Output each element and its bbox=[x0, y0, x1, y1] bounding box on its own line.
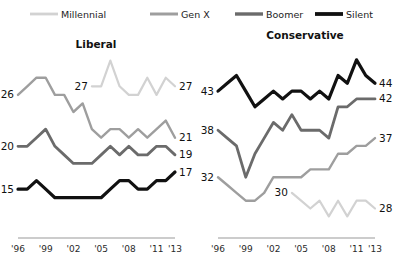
x-tick-label-liberal-08: '08 bbox=[122, 244, 136, 254]
x-tick-label-conservative-99: '99 bbox=[239, 244, 253, 254]
start-value-label-liberal-gen-x: 26 bbox=[1, 88, 15, 100]
end-value-label-conservative-boomer: 42 bbox=[379, 92, 392, 104]
end-value-label-liberal-gen-x: 21 bbox=[179, 131, 192, 143]
x-tick-label-conservative-02: '02 bbox=[266, 244, 280, 254]
legend-label-gen-x: Gen X bbox=[181, 9, 210, 20]
x-tick-label-conservative-96: '96 bbox=[211, 244, 225, 254]
end-value-label-liberal-boomer: 19 bbox=[179, 148, 192, 160]
x-tick-label-conservative-11: '11 bbox=[350, 244, 364, 254]
legend-label-boomer: Boomer bbox=[266, 9, 303, 20]
panel-title-conservative: Conservative bbox=[266, 29, 343, 41]
legend-label-silent: Silent bbox=[346, 9, 373, 20]
end-value-label-conservative-millennial: 28 bbox=[379, 202, 392, 214]
x-tick-label-liberal-02: '02 bbox=[66, 244, 80, 254]
end-value-label-conservative-silent: 44 bbox=[379, 77, 393, 89]
panel-title-liberal: Liberal bbox=[76, 38, 117, 50]
end-value-label-conservative-gen-x: 37 bbox=[379, 132, 392, 144]
start-value-label-conservative-gen-x: 32 bbox=[201, 171, 214, 183]
legend-label-millennial: Millennial bbox=[61, 9, 106, 20]
x-tick-label-liberal-11: '11 bbox=[150, 244, 164, 254]
start-value-label-conservative-millennial: 30 bbox=[275, 186, 288, 198]
start-value-label-conservative-silent: 43 bbox=[201, 85, 214, 97]
x-tick-label-liberal-99: '99 bbox=[39, 244, 53, 254]
x-tick-label-liberal-13: '13 bbox=[168, 244, 182, 254]
x-tick-label-liberal-96: '96 bbox=[11, 244, 25, 254]
start-value-label-conservative-boomer: 38 bbox=[201, 124, 214, 136]
x-tick-label-conservative-13: '13 bbox=[368, 244, 382, 254]
x-tick-label-liberal-05: '05 bbox=[94, 244, 108, 254]
start-value-label-liberal-boomer: 20 bbox=[1, 140, 14, 152]
start-value-label-liberal-silent: 15 bbox=[1, 183, 14, 195]
x-tick-label-conservative-05: '05 bbox=[294, 244, 308, 254]
generational-ideology-line-charts: MillennialGen XBoomerSilent Liberal'96'9… bbox=[0, 0, 396, 267]
end-value-label-liberal-millennial: 27 bbox=[179, 80, 192, 92]
end-value-label-liberal-silent: 17 bbox=[179, 166, 192, 178]
start-value-label-liberal-millennial: 27 bbox=[75, 80, 88, 92]
x-tick-label-conservative-08: '08 bbox=[322, 244, 336, 254]
